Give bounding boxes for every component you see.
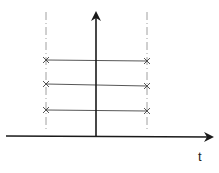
horizontal-axis [6, 136, 211, 137]
x-axis-label: t [198, 149, 202, 164]
diagram-canvas [0, 0, 219, 173]
